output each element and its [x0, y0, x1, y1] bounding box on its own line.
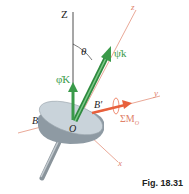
sum-moment-label: ΣMO — [120, 113, 139, 129]
shaft — [42, 140, 60, 178]
z-axis-label: z — [131, 2, 135, 13]
origin-label: O — [69, 123, 76, 134]
theta-label: θ — [81, 46, 86, 57]
phi-dot-K-label: φ̇K — [56, 74, 70, 85]
x-axis-label: x — [118, 158, 122, 169]
sum-moment-subscript: O — [135, 120, 139, 126]
moment-vector-head — [122, 100, 132, 109]
gyroscope-figure: Z z θ ψ̇k φ̇K y B′ B O ΣMO x Fig. 18.31 — [0, 0, 189, 194]
Z-axis-label: Z — [61, 9, 68, 20]
sum-moment-text: ΣM — [120, 113, 135, 124]
diagram-svg — [0, 0, 189, 194]
B-prime-label: B′ — [94, 99, 102, 110]
B-label: B — [32, 115, 38, 126]
figure-caption: Fig. 18.31 — [142, 178, 183, 188]
psi-dot-k-label: ψ̇k — [114, 48, 126, 59]
shaft-highlight — [41, 140, 59, 177]
y-axis-label: y — [154, 88, 158, 99]
